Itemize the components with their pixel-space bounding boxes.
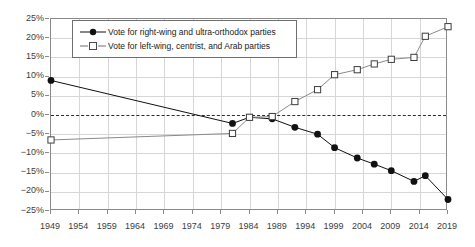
x-axis-tick-mark <box>447 210 448 214</box>
y-axis: 25%20%15%10%5%0%−5%−10%−15%−20%−25% <box>0 0 46 247</box>
y-axis-tick-mark <box>45 210 49 211</box>
y-axis-tick-mark <box>45 114 49 115</box>
data-point-marker <box>314 131 321 138</box>
data-point-marker <box>229 120 236 127</box>
y-axis-tick-label: −5% <box>0 129 44 138</box>
data-point-marker <box>269 113 275 119</box>
data-point-marker <box>388 56 394 62</box>
data-point-marker <box>371 161 378 168</box>
data-point-marker <box>314 87 320 93</box>
y-axis-tick-label: −15% <box>0 167 44 176</box>
data-point-marker <box>422 33 428 39</box>
y-axis-tick-mark <box>45 76 49 77</box>
data-point-marker <box>292 98 298 104</box>
open-square-marker-icon <box>78 40 108 52</box>
data-point-marker <box>229 130 235 136</box>
x-axis-tick-mark <box>390 210 391 214</box>
y-axis-tick-label: 15% <box>0 52 44 61</box>
x-axis-tick-mark <box>334 210 335 214</box>
chart-legend: Vote for right-wing and ultra-orthodox p… <box>72 20 297 58</box>
y-axis-tick-mark <box>45 95 49 96</box>
y-axis-tick-label: 0% <box>0 110 44 119</box>
x-axis-tick-mark <box>78 210 79 214</box>
data-point-marker <box>331 144 338 151</box>
data-point-marker <box>354 67 360 73</box>
y-axis-tick-label: −10% <box>0 148 44 157</box>
y-axis-tick-label: 5% <box>0 90 44 99</box>
x-axis-tick-mark <box>305 210 306 214</box>
y-axis-tick-label: −20% <box>0 186 44 195</box>
data-point-marker <box>246 114 252 120</box>
x-axis-tick-mark <box>135 210 136 214</box>
x-axis-tick-mark <box>249 210 250 214</box>
x-axis-tick-mark <box>220 210 221 214</box>
x-axis-tick-mark <box>277 210 278 214</box>
data-point-marker <box>445 24 451 30</box>
x-axis-tick-mark <box>107 210 108 214</box>
data-point-marker <box>371 61 377 67</box>
data-point-marker <box>445 196 452 203</box>
y-axis-tick-mark <box>45 18 49 19</box>
data-point-marker <box>48 137 54 143</box>
y-axis-tick-mark <box>45 172 49 173</box>
y-axis-tick-label: 25% <box>0 14 44 23</box>
y-axis-tick-mark <box>45 37 49 38</box>
x-axis-tick-label: 2019 <box>427 222 467 231</box>
y-axis-tick-mark <box>45 133 49 134</box>
legend-item-right-wing: Vote for right-wing and ultra-orthodox p… <box>78 25 290 39</box>
data-point-marker <box>422 172 429 179</box>
y-axis-tick-label: 20% <box>0 33 44 42</box>
filled-circle-marker-icon <box>78 26 108 38</box>
x-axis-tick-mark <box>192 210 193 214</box>
y-axis-tick-mark <box>45 56 49 57</box>
y-axis-tick-label: 10% <box>0 71 44 80</box>
data-point-marker <box>411 54 417 60</box>
x-axis-tick-mark <box>419 210 420 214</box>
series-line-right-wing <box>51 80 448 199</box>
x-axis-tick-mark <box>362 210 363 214</box>
x-axis-tick-mark <box>163 210 164 214</box>
y-axis-tick-mark <box>45 152 49 153</box>
data-point-marker <box>411 178 418 185</box>
legend-label-left-wing: Vote for left-wing, centrist, and Arab p… <box>108 42 270 51</box>
y-axis-tick-label: −25% <box>0 206 44 215</box>
data-point-marker <box>331 72 337 78</box>
data-point-marker <box>388 167 395 174</box>
y-axis-tick-mark <box>45 191 49 192</box>
data-point-marker <box>291 124 298 131</box>
legend-label-right-wing: Vote for right-wing and ultra-orthodox p… <box>108 28 276 37</box>
data-point-marker <box>48 77 55 84</box>
x-axis-tick-mark <box>50 210 51 214</box>
legend-item-left-wing: Vote for left-wing, centrist, and Arab p… <box>78 39 290 53</box>
data-point-marker <box>354 155 361 162</box>
chart-container: 25%20%15%10%5%0%−5%−10%−15%−20%−25% 1949… <box>0 0 475 247</box>
